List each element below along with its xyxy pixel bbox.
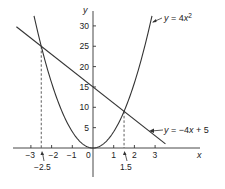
x-tick-label: −2: [49, 150, 59, 160]
y-tick-label: 20: [80, 62, 90, 72]
straight-line: [16, 27, 165, 144]
parabola-eq-rest: = 4: [169, 13, 184, 23]
y-ticks: 51015202530: [80, 21, 96, 133]
x-tick-label: −1: [67, 150, 77, 160]
y-axis-label: y: [82, 5, 88, 15]
axes: [13, 11, 200, 177]
y-tick-label: 5: [84, 123, 89, 133]
svg-text:y = −4x + 5: y = −4x + 5: [163, 125, 209, 135]
intersect-left-value: −2.5: [34, 162, 51, 172]
line-eq-rest: + 5: [194, 125, 209, 135]
y-tick-label: 30: [80, 21, 90, 31]
chart-canvas: −3−2−10123 51015202530 x y y = 4x2 y = −…: [0, 0, 225, 189]
x-ticks: −3−2−10123: [25, 145, 157, 160]
line-eq-mid: = −4: [169, 125, 190, 135]
parabola-eq-exp: 2: [188, 12, 192, 19]
intersect-right-arrowhead-icon: [123, 151, 127, 155]
x-tick-label: 3: [153, 150, 158, 160]
intersect-left-arrowhead-icon: [41, 151, 45, 155]
curves: [16, 16, 165, 148]
x-tick-label: 0: [86, 150, 91, 160]
x-tick-label: −3: [25, 150, 35, 160]
parabola-label: y = 4x2: [152, 12, 192, 24]
x-tick-label: 2: [132, 150, 137, 160]
intersect-right-value: 1.5: [120, 162, 132, 172]
svg-text:y = 4x2: y = 4x2: [163, 12, 192, 24]
y-tick-label: 25: [80, 41, 90, 51]
intersect-right-label: 1.5: [120, 151, 132, 172]
line-label: y = −4x + 5: [149, 125, 209, 135]
parabola-arrowhead-icon: [152, 19, 157, 23]
x-tick-label: 1: [111, 150, 116, 160]
y-tick-label: 10: [80, 102, 90, 112]
x-axis-label: x: [196, 150, 202, 160]
